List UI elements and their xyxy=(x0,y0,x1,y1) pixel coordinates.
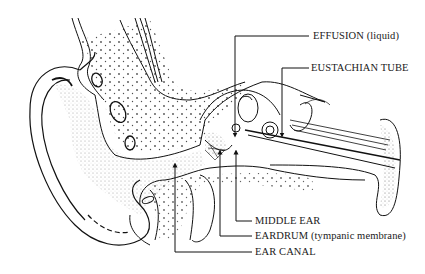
eustachian-tube-structure xyxy=(245,99,400,215)
label-eardrum: EARDRUM (tympanic membrane) xyxy=(255,230,406,242)
label-ear-canal: EAR CANAL xyxy=(255,246,316,258)
label-eustachian-tube: EUSTACHIAN TUBE xyxy=(311,62,409,74)
label-middle-ear: MIDDLE EAR xyxy=(255,215,320,227)
label-effusion: EFFUSION (liquid) xyxy=(313,30,399,42)
